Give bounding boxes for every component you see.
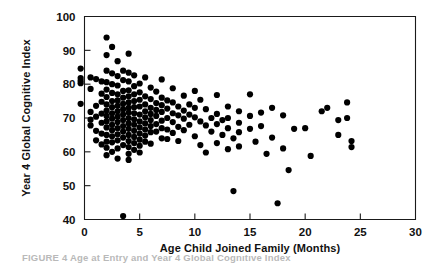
data-point — [186, 101, 192, 107]
data-point — [203, 122, 209, 128]
x-tick-label-30: 30 — [409, 226, 422, 238]
data-point — [181, 93, 187, 99]
data-point — [170, 130, 176, 136]
data-point — [181, 127, 187, 133]
data-point — [131, 110, 137, 116]
data-point — [214, 121, 220, 127]
data-point — [192, 105, 198, 111]
data-point — [109, 104, 115, 110]
data-point — [186, 122, 192, 128]
data-point — [137, 143, 143, 149]
data-point — [159, 95, 165, 101]
data-point — [225, 146, 231, 152]
data-point — [93, 128, 99, 134]
data-point — [142, 139, 148, 145]
data-point — [175, 124, 181, 130]
data-point — [170, 119, 176, 125]
data-point — [120, 68, 126, 74]
data-point — [131, 128, 137, 134]
x-tick-label-10: 10 — [188, 226, 201, 238]
data-point — [103, 107, 109, 113]
data-point — [120, 106, 126, 112]
data-point — [230, 135, 236, 141]
data-point — [120, 142, 126, 148]
data-point — [142, 93, 148, 99]
data-point — [78, 66, 84, 72]
data-point — [93, 137, 99, 143]
data-point — [137, 97, 143, 103]
data-point — [181, 107, 187, 113]
data-point — [109, 149, 115, 155]
data-point — [131, 140, 137, 146]
data-point — [126, 132, 132, 138]
data-point — [192, 114, 198, 120]
data-point — [280, 145, 286, 151]
data-point — [103, 34, 109, 40]
data-point — [153, 121, 159, 127]
data-point — [120, 135, 126, 141]
data-point — [126, 99, 132, 105]
data-point — [120, 88, 126, 94]
data-point — [142, 132, 148, 138]
data-point — [126, 157, 132, 163]
data-point — [247, 126, 253, 132]
y-tick-label-40: 40 — [63, 214, 76, 226]
data-point — [170, 85, 176, 91]
data-point — [148, 129, 154, 135]
data-point — [126, 78, 132, 84]
data-point — [115, 82, 121, 88]
x-tick-label-5: 5 — [136, 226, 143, 238]
data-point — [344, 115, 350, 121]
data-point — [236, 108, 242, 114]
data-point — [115, 131, 121, 137]
data-point — [153, 107, 159, 113]
data-point — [142, 74, 148, 80]
data-point — [103, 52, 109, 58]
y-tick-label-70: 70 — [63, 112, 76, 124]
data-point — [153, 113, 159, 119]
data-point — [137, 118, 143, 124]
data-point — [225, 103, 231, 109]
data-point — [115, 97, 121, 103]
data-point — [175, 112, 181, 118]
data-point — [148, 117, 154, 123]
data-point — [219, 117, 225, 123]
data-point — [258, 109, 264, 115]
scatter-plot: 405060708090100051015202530Age Child Joi… — [0, 0, 437, 271]
data-point — [87, 86, 93, 92]
data-point — [291, 126, 297, 132]
data-point — [214, 140, 220, 146]
data-point — [120, 128, 126, 134]
data-point — [269, 105, 275, 111]
data-point — [93, 103, 99, 109]
data-point — [131, 91, 137, 97]
data-point — [142, 101, 148, 107]
figure-container: 405060708090100051015202530Age Child Joi… — [0, 0, 437, 271]
data-point — [103, 145, 109, 151]
data-point — [335, 117, 341, 123]
data-point — [159, 135, 165, 141]
data-point — [126, 93, 132, 99]
data-point — [170, 110, 176, 116]
data-point — [109, 90, 115, 96]
y-tick-label-50: 50 — [63, 180, 76, 192]
data-point — [269, 135, 275, 141]
data-point — [109, 81, 115, 87]
data-point — [109, 133, 115, 139]
data-point — [142, 120, 148, 126]
data-point — [192, 88, 198, 94]
data-point — [131, 147, 137, 153]
data-point — [153, 128, 159, 134]
data-point — [203, 106, 209, 112]
data-point — [219, 132, 225, 138]
data-point — [78, 101, 84, 107]
data-point — [214, 92, 220, 98]
data-point — [153, 89, 159, 95]
data-point — [137, 124, 143, 130]
data-point — [126, 120, 132, 126]
x-tick-label-20: 20 — [299, 226, 312, 238]
data-point — [192, 133, 198, 139]
data-point — [103, 113, 109, 119]
data-point — [197, 118, 203, 124]
data-point — [109, 116, 115, 122]
